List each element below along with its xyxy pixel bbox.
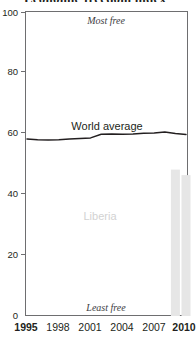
y-tick-label-0: 0 — [13, 311, 18, 321]
x-tick-label-2004: 2004 — [110, 322, 133, 333]
y-tick-label-60: 60 — [7, 128, 18, 138]
y-tick-label-80: 80 — [7, 67, 18, 77]
world-average-line — [27, 132, 186, 140]
annotation-least-free: Least free — [86, 303, 125, 313]
x-axis: 1995 1998 2001 2004 2007 2010 — [0, 322, 196, 343]
bar-liberia-2009 — [171, 170, 180, 316]
x-tick-label-2010: 2010 — [172, 322, 195, 333]
series-label-liberia: Liberia — [83, 211, 116, 222]
y-tick-label-20: 20 — [7, 250, 18, 260]
series-label-world-average: World average — [71, 121, 142, 132]
y-axis: 100 80 60 40 20 0 — [0, 0, 25, 343]
y-tick-label-100: 100 — [2, 8, 18, 18]
plot-data-layer — [25, 11, 188, 316]
bar-liberia-2010 — [182, 175, 191, 316]
x-tick-label-1998: 1998 — [46, 322, 69, 333]
y-tick-label-40: 40 — [7, 189, 18, 199]
x-tick-label-1995: 1995 — [14, 322, 37, 333]
economic-freedom-chart: Economic freedom index 100 80 60 40 20 0… — [0, 0, 196, 343]
annotation-most-free: Most free — [87, 16, 125, 26]
chart-title: Economic freedom index — [24, 0, 190, 2]
x-tick-label-2001: 2001 — [78, 322, 101, 333]
liberia-bars — [171, 170, 191, 316]
x-tick-label-2007: 2007 — [142, 322, 165, 333]
